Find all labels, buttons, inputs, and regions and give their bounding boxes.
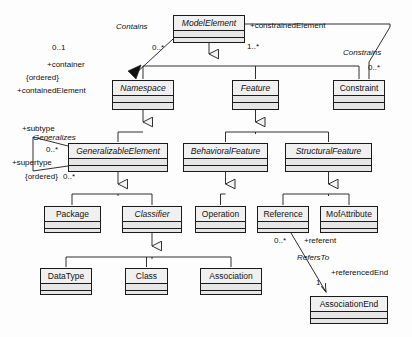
role-contained-element: +containedElement — [17, 86, 86, 95]
class-operations-compartment — [123, 229, 181, 232]
class-name-structural-feature: StructuralFeature — [286, 144, 371, 159]
class-operations-compartment — [321, 229, 377, 232]
class-box-association-end[interactable]: AssociationEnd — [310, 296, 388, 324]
class-attributes-compartment — [123, 222, 181, 229]
class-name-constraint: Constraint — [334, 81, 384, 96]
class-name-data-type: DataType — [41, 269, 91, 284]
class-box-data-type[interactable]: DataType — [40, 268, 92, 295]
class-box-namespace[interactable]: Namespace — [112, 80, 174, 110]
multiplicity-supertype: 0..* — [63, 172, 75, 181]
multiplicity-contains-contained: 0..* — [152, 43, 164, 52]
class-attributes-compartment — [174, 31, 244, 38]
class-attributes-compartment — [113, 96, 173, 103]
class-name-mof-attribute: MofAttribute — [321, 207, 377, 222]
class-operations-compartment — [258, 229, 308, 232]
class-name-operation: Operation — [196, 207, 245, 222]
constraint-ordered-generalizes: {ordered} — [25, 172, 58, 181]
association-name-contains: Contains — [116, 22, 148, 31]
association-name-refers-to: RefersTo — [297, 253, 329, 262]
role-container: +container — [47, 60, 85, 69]
multiplicity-subtype: 0..* — [46, 145, 58, 154]
class-box-feature[interactable]: Feature — [232, 80, 279, 110]
class-operations-compartment — [41, 291, 91, 294]
class-box-association[interactable]: Association — [200, 268, 262, 295]
class-operations-compartment — [311, 319, 387, 323]
class-box-model-element[interactable]: ModelElement — [173, 15, 245, 43]
class-name-model-element: ModelElement — [174, 16, 244, 31]
generalization-feature — [226, 110, 329, 142]
class-box-mof-attribute[interactable]: MofAttribute — [320, 206, 378, 233]
association-name-generalizes: Generalizes — [33, 133, 76, 142]
class-box-behavioral-feature[interactable]: BehavioralFeature — [183, 143, 268, 172]
role-referenced-end: +referencedEnd — [331, 268, 388, 277]
class-name-reference: Reference — [258, 207, 308, 222]
constraint-ordered-contains: {ordered} — [26, 73, 59, 82]
association-name-constrains: Constrains — [343, 48, 381, 57]
generalization-generalizableelement — [72, 172, 152, 205]
role-referent: +referent — [304, 236, 336, 245]
class-operations-compartment — [334, 103, 384, 109]
class-box-generalizable-element[interactable]: GeneralizableElement — [68, 143, 168, 172]
class-name-package: Package — [45, 207, 100, 222]
class-attributes-compartment — [41, 284, 91, 291]
role-constrained-element: +constrainedElement — [250, 21, 325, 30]
class-name-classifier: Classifier — [123, 207, 181, 222]
multiplicity-referenced-end: 1 — [316, 278, 320, 287]
class-attributes-compartment — [258, 222, 308, 229]
generalization-behavioralfeature — [221, 172, 226, 205]
class-attributes-compartment — [196, 222, 245, 229]
class-operations-compartment — [196, 229, 245, 232]
generalization-namespace — [118, 110, 143, 142]
generalization-classifier — [66, 233, 231, 267]
class-name-feature: Feature — [233, 81, 278, 96]
class-operations-compartment — [174, 38, 244, 42]
class-operations-compartment — [184, 166, 267, 171]
class-attributes-compartment — [69, 159, 167, 166]
class-name-class: Class — [126, 269, 167, 284]
class-name-association-end: AssociationEnd — [311, 297, 387, 312]
class-attributes-compartment — [321, 222, 377, 229]
class-operations-compartment — [113, 103, 173, 109]
role-subtype: +subtype — [22, 124, 55, 133]
class-attributes-compartment — [45, 222, 100, 229]
class-name-association: Association — [201, 269, 261, 284]
class-box-class[interactable]: Class — [125, 268, 168, 295]
class-operations-compartment — [126, 291, 167, 294]
class-attributes-compartment — [126, 284, 167, 291]
uml-class-diagram-canvas: ModelElement Namespace Feature Constrain… — [0, 0, 412, 337]
class-box-constraint[interactable]: Constraint — [333, 80, 385, 110]
generalization-structuralfeature — [283, 172, 349, 205]
class-name-behavioral-feature: BehavioralFeature — [184, 144, 267, 159]
role-supertype: +supertype — [12, 158, 52, 167]
multiplicity-constrained-element: 1..* — [247, 42, 259, 51]
class-attributes-compartment — [311, 312, 387, 319]
class-name-namespace: Namespace — [113, 81, 173, 96]
class-attributes-compartment — [233, 96, 278, 103]
class-operations-compartment — [286, 166, 371, 171]
class-operations-compartment — [201, 291, 261, 294]
multiplicity-constraint: 0..* — [368, 63, 380, 72]
class-attributes-compartment — [201, 284, 261, 291]
contains-filled-arrowhead — [128, 65, 141, 79]
class-attributes-compartment — [184, 159, 267, 166]
class-box-classifier[interactable]: Classifier — [122, 206, 182, 233]
multiplicity-referent: 0..* — [274, 236, 286, 245]
class-name-generalizable-element: GeneralizableElement — [69, 144, 167, 159]
class-box-package[interactable]: Package — [44, 206, 101, 233]
class-operations-compartment — [233, 103, 278, 109]
class-operations-compartment — [45, 229, 100, 232]
class-box-structural-feature[interactable]: StructuralFeature — [285, 143, 372, 172]
class-operations-compartment — [69, 166, 167, 171]
multiplicity-container: 0..1 — [52, 43, 65, 52]
class-box-reference[interactable]: Reference — [257, 206, 309, 233]
class-box-operation[interactable]: Operation — [195, 206, 246, 233]
class-attributes-compartment — [286, 159, 371, 166]
class-attributes-compartment — [334, 96, 384, 103]
